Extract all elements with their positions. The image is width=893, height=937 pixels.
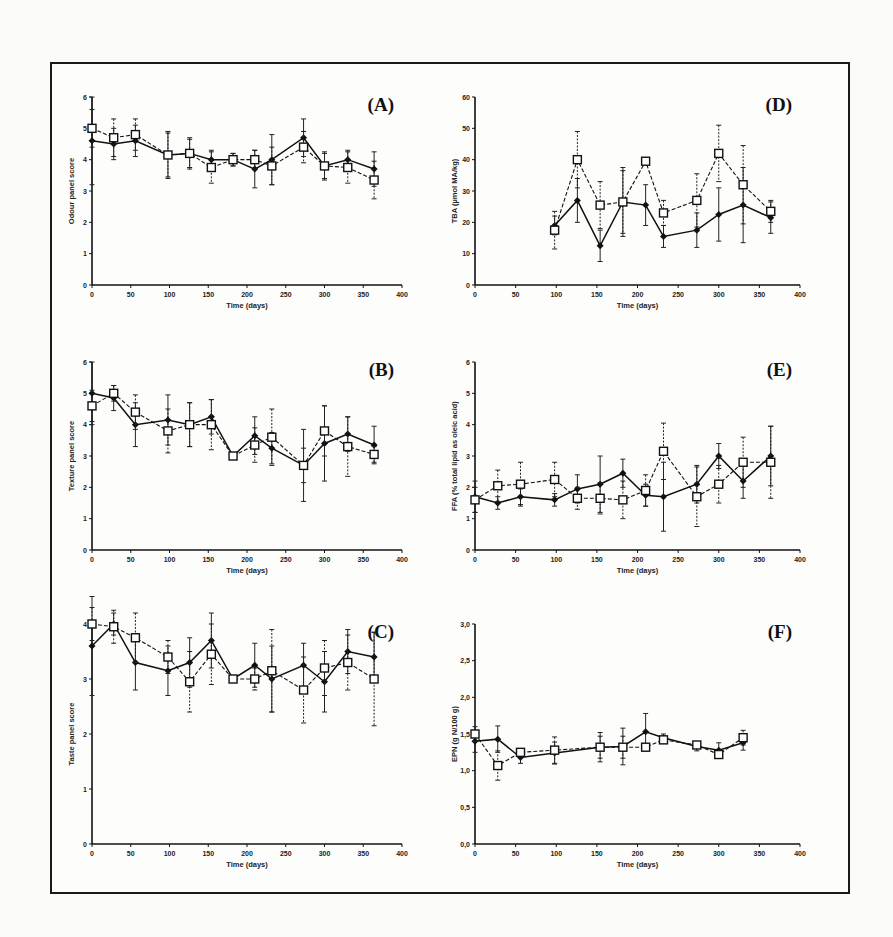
data-point — [110, 134, 118, 142]
y-tick-label: 3 — [83, 453, 87, 460]
x-tick-label: 350 — [754, 850, 766, 857]
x-tick-label: 200 — [632, 291, 644, 298]
y-tick-label: 0 — [83, 841, 87, 848]
chart-E: 0501001502002503003504000123456Time (day… — [445, 350, 820, 580]
series-filled-diamond — [89, 97, 378, 188]
data-point — [164, 427, 172, 435]
panel-label: (C) — [368, 621, 394, 643]
y-tick-label: 2 — [83, 484, 87, 491]
data-point — [715, 480, 723, 488]
y-tick-label: 4 — [83, 156, 87, 163]
y-tick-label: 30 — [462, 188, 470, 195]
x-tick-label: 150 — [202, 556, 214, 563]
x-tick-label: 0 — [473, 556, 477, 563]
panel-label: (E) — [767, 359, 792, 381]
x-axis-label: Time (days) — [617, 860, 659, 869]
x-tick-label: 400 — [396, 556, 408, 563]
y-tick-label: 2 — [83, 219, 87, 226]
y-tick-label: 50 — [462, 125, 470, 132]
y-tick-label: 1 — [83, 786, 87, 793]
data-point — [131, 408, 139, 416]
x-tick-label: 250 — [672, 556, 684, 563]
series-open-square — [88, 110, 378, 199]
x-tick-label: 350 — [357, 291, 369, 298]
x-tick-label: 250 — [672, 291, 684, 298]
data-point — [660, 209, 668, 217]
data-point — [370, 450, 378, 458]
data-point — [186, 149, 194, 157]
y-tick-label: 1,5 — [460, 731, 470, 739]
y-tick-label: 6 — [83, 94, 87, 101]
data-point — [551, 476, 559, 484]
panel-label: (D) — [766, 94, 792, 116]
data-point — [370, 675, 378, 683]
y-axis-label: Odour panel score — [67, 158, 76, 224]
x-tick-label: 300 — [319, 850, 331, 857]
x-tick-label: 50 — [127, 850, 135, 857]
data-point — [619, 198, 627, 206]
data-point — [715, 751, 723, 759]
data-point — [767, 207, 775, 215]
data-point — [517, 480, 525, 488]
x-tick-label: 150 — [591, 291, 603, 298]
data-point — [164, 151, 172, 159]
data-point — [321, 664, 329, 672]
data-point — [471, 730, 479, 738]
x-tick-label: 0 — [473, 850, 477, 857]
data-point — [229, 156, 237, 164]
data-point — [229, 675, 237, 683]
data-point — [186, 421, 194, 429]
data-point — [207, 164, 215, 172]
data-point — [251, 441, 259, 449]
x-axis-label: Time (days) — [226, 301, 268, 310]
series-open-square — [551, 125, 775, 249]
x-tick-label: 400 — [794, 291, 806, 298]
y-tick-label: 6 — [466, 359, 470, 366]
data-point — [739, 458, 747, 466]
series-open-square — [88, 386, 378, 483]
data-point — [268, 667, 276, 675]
x-tick-label: 300 — [713, 556, 725, 563]
data-point — [268, 433, 276, 441]
data-point — [660, 447, 668, 455]
data-point — [596, 201, 604, 209]
y-tick-label: 4 — [83, 421, 87, 428]
panel-C: 05010015020025030035040001234Time (days)… — [62, 612, 422, 874]
data-point — [300, 143, 308, 151]
panel-label: (F) — [768, 621, 792, 643]
x-tick-label: 100 — [550, 556, 562, 563]
data-point — [551, 496, 558, 503]
y-tick-label: 10 — [462, 250, 470, 257]
data-point — [88, 620, 96, 628]
data-point — [110, 389, 118, 397]
x-tick-label: 200 — [241, 291, 253, 298]
data-point — [207, 650, 215, 658]
y-tick-label: 1 — [466, 515, 470, 522]
y-tick-label: 3 — [466, 453, 470, 460]
x-tick-label: 50 — [127, 291, 135, 298]
x-tick-label: 350 — [357, 556, 369, 563]
panel-E: 0501001502002503003504000123456Time (day… — [445, 350, 820, 580]
y-tick-label: 5 — [83, 390, 87, 397]
x-tick-label: 400 — [794, 850, 806, 857]
chart-A: 0501001502002503003504000123456Time (day… — [62, 85, 422, 315]
y-tick-label: 3 — [83, 188, 87, 195]
y-tick-label: 1 — [83, 515, 87, 522]
data-point — [229, 452, 237, 460]
panel-B: 0501001502002503003504000123456Time (day… — [62, 350, 422, 580]
x-tick-label: 400 — [396, 850, 408, 857]
x-axis-label: Time (days) — [226, 860, 268, 869]
series-filled-diamond — [472, 426, 775, 531]
x-tick-label: 350 — [357, 850, 369, 857]
x-tick-label: 50 — [127, 556, 135, 563]
y-axis-label: EPN (g N/100 g) — [450, 706, 459, 762]
y-tick-label: 3,0 — [460, 621, 470, 629]
data-point — [551, 746, 559, 754]
x-tick-label: 250 — [280, 291, 292, 298]
series-open-square — [471, 727, 747, 781]
y-tick-label: 2,0 — [460, 694, 470, 702]
x-tick-label: 150 — [591, 556, 603, 563]
x-tick-label: 150 — [202, 850, 214, 857]
y-tick-label: 2,5 — [460, 657, 470, 665]
panel-F: 0501001502002503003504000,00,51,01,52,02… — [445, 612, 820, 874]
